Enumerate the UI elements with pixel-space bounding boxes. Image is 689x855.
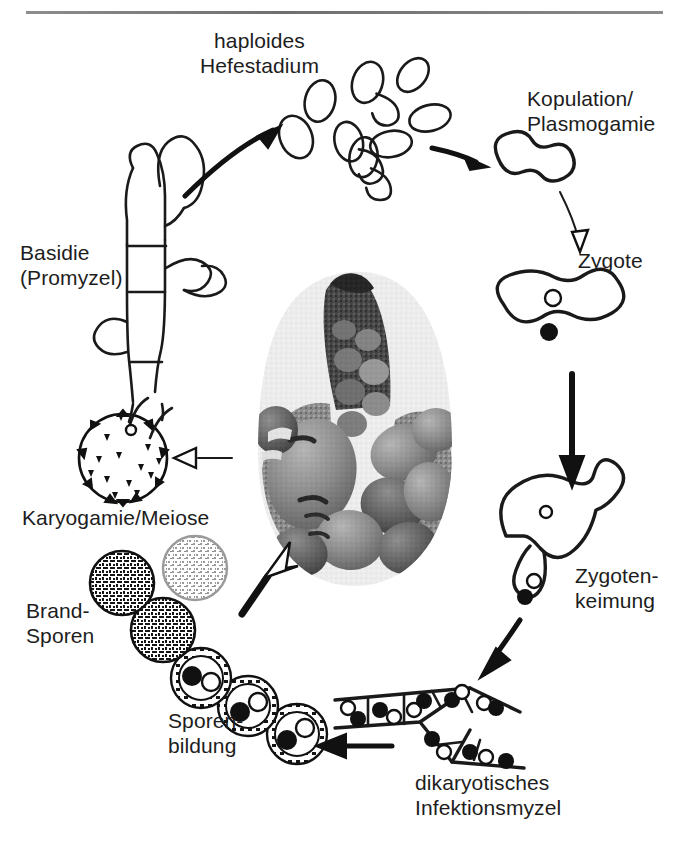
arrow-copulation-to-zygote xyxy=(560,192,588,252)
brand-spore xyxy=(90,551,154,615)
label-haploides-hefestadium: haploides Hefestadium xyxy=(200,28,319,78)
label-karyogamie-meiose: Karyogamie/Meiose xyxy=(22,505,209,530)
label-dikaryotisches-infektionsmyzel: dikaryotisches Infektionsmyzel xyxy=(415,770,561,820)
arrow-yeast-to-copulation xyxy=(432,148,488,170)
dikaryotic-infection-mycelium xyxy=(335,685,524,769)
arrow-spores-to-karyogamy xyxy=(174,448,232,468)
maize-ear-photo xyxy=(250,265,465,595)
arrow-germination-to-mycelium xyxy=(480,620,520,678)
zygote-cell xyxy=(497,269,624,341)
label-sporenbildung: Sporen- bildung xyxy=(168,708,243,758)
label-zygotenkeimung: Zygoten- keimung xyxy=(575,563,659,613)
copulating-cell-pair xyxy=(495,132,574,182)
arrow-zygote-to-germination xyxy=(560,374,584,488)
germinating-teliospore xyxy=(78,398,172,506)
brand-spore xyxy=(163,536,227,600)
label-brand-sporen: Brand- Sporen xyxy=(26,598,94,648)
label-zygote: Zygote xyxy=(578,248,643,273)
label-basidie-promyzel: Basidie (Promyzel) xyxy=(20,240,123,290)
life-cycle-diagram: .s{fill:none;stroke:#1a1a1a;stroke-width… xyxy=(0,0,689,855)
label-kopulation-plasmogamie: Kopulation/ Plasmogamie xyxy=(527,86,655,136)
arrow-basidium-to-yeast xyxy=(185,126,281,196)
